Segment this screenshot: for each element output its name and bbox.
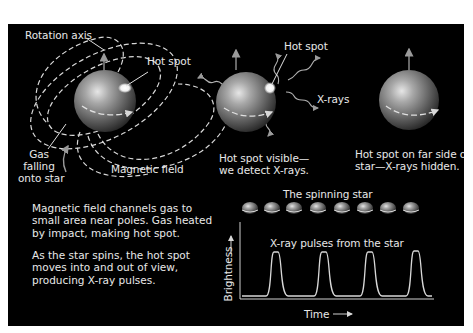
y-axis-label: Brightness (222, 244, 234, 304)
hot-spot-hidden-caption: Hot spot on far side of star—X-rays hidd… (355, 148, 464, 172)
rotation-axis-label: Rotation axis (25, 29, 92, 41)
hot-spot-visible-caption: Hot spot visible— we detect X-rays. (219, 152, 309, 176)
hot-spot-label-2: Hot spot (284, 40, 328, 52)
magnetic-field-label: Magnetic field (111, 163, 184, 175)
hot-spot-leader (126, 72, 148, 86)
hot-spot-label: Hot spot (147, 55, 191, 67)
hot-spot-visible (264, 82, 276, 94)
x-axis-label: Time (304, 308, 329, 320)
pulse-chart (231, 222, 434, 314)
spinning-star-row (242, 202, 419, 214)
diagram-panel: Rotation axis Hot spot Gas falling onto … (8, 24, 464, 326)
hot-spot-glow (118, 83, 132, 93)
star-sphere-large (74, 70, 136, 132)
star-sphere-hidden (379, 70, 439, 130)
gas-flow-arrow (63, 146, 68, 172)
gas-falling-label: Gas falling onto star (18, 148, 60, 184)
star-sphere-visible (216, 72, 276, 132)
explanation-paragraph-2: As the star spins, the hot spot moves in… (32, 249, 190, 286)
pulse-curve (242, 251, 432, 296)
chart-title: X-ray pulses from the star (270, 237, 404, 249)
explanation-paragraph-1: Magnetic field channels gas to small are… (32, 202, 212, 239)
spinning-star-title: The spinning star (283, 188, 372, 200)
x-rays-label: X-rays (317, 93, 349, 105)
